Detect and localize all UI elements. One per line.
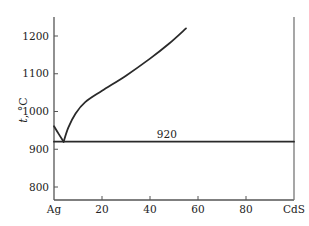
curves: [54, 28, 294, 141]
x-tick-label: CdS: [283, 203, 305, 215]
x-tick-label: Ag: [46, 203, 62, 215]
eutectic-temperature-label: 920: [157, 128, 177, 140]
y-axis-title: t, °C: [17, 97, 30, 122]
x-tick-label: 80: [239, 203, 252, 215]
liquidus-Ag-side: [54, 126, 64, 141]
y-tick-label: 800: [29, 181, 49, 193]
axes: [54, 17, 294, 200]
y-tick-label: 900: [29, 143, 49, 155]
phase-diagram: 800900100011001200Ag20406080CdSt, °C920: [0, 0, 309, 226]
liquidus-CdS-side: [64, 28, 186, 141]
x-tick-label: 20: [95, 203, 108, 215]
x-tick-label: 40: [143, 203, 156, 215]
y-tick-label: 1200: [22, 30, 49, 42]
x-tick-label: 60: [191, 203, 204, 215]
labels: 800900100011001200Ag20406080CdSt, °C920: [17, 30, 305, 216]
y-tick-label: 1100: [22, 67, 49, 79]
y-axis-unit: , °C: [17, 97, 30, 118]
